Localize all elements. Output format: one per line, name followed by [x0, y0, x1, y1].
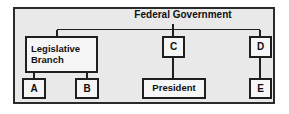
node-president-label: President [152, 83, 195, 94]
diagram-canvas: Federal Government Legislative Branch A … [0, 0, 289, 114]
node-c[interactable]: C [162, 36, 185, 58]
diagram-title: Federal Government [120, 9, 246, 20]
node-d[interactable]: D [249, 36, 272, 58]
node-legislative-branch[interactable]: Legislative Branch [25, 36, 98, 73]
node-b[interactable]: B [75, 78, 99, 99]
node-legislative-branch-line2: Branch [31, 55, 80, 66]
node-legislative-branch-line1: Legislative [31, 44, 80, 55]
node-b-label: B [83, 83, 90, 94]
node-e-label: E [257, 83, 264, 94]
node-a[interactable]: A [22, 78, 46, 99]
node-president[interactable]: President [142, 78, 206, 99]
node-a-label: A [30, 83, 37, 94]
node-e[interactable]: E [249, 78, 272, 99]
node-c-label: C [170, 41, 177, 52]
node-d-label: D [257, 41, 264, 52]
